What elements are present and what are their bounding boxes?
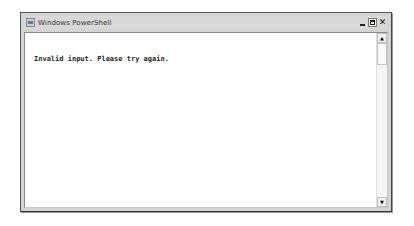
powershell-window: Windows PowerShell ✕ Invalid input. Plea… — [20, 12, 392, 212]
console-area[interactable]: Invalid input. Please try again. ▲ ▼ — [24, 32, 388, 208]
powershell-icon — [26, 18, 35, 27]
scroll-thumb[interactable] — [377, 43, 387, 65]
window-title: Windows PowerShell — [38, 19, 112, 27]
console-output-line: Invalid input. Please try again. — [34, 55, 169, 63]
title-bar[interactable]: Windows PowerShell ✕ — [24, 16, 388, 29]
scroll-down-button[interactable]: ▼ — [377, 197, 387, 207]
close-button[interactable]: ✕ — [378, 18, 387, 27]
scroll-up-button[interactable]: ▲ — [377, 33, 387, 43]
window-controls: ✕ — [358, 18, 387, 27]
minimize-button[interactable] — [358, 18, 367, 27]
maximize-button[interactable] — [368, 18, 377, 27]
vertical-scrollbar[interactable]: ▲ ▼ — [376, 33, 387, 207]
